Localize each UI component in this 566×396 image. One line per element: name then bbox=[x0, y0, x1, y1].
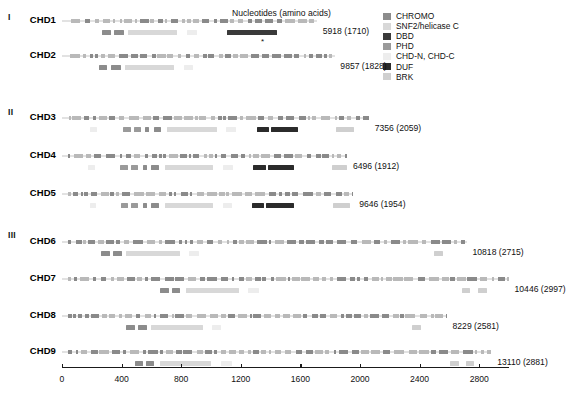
exon-block bbox=[146, 192, 155, 196]
exon-block bbox=[347, 116, 351, 120]
exon-block bbox=[350, 277, 356, 281]
exon-block bbox=[84, 116, 90, 120]
exon-block bbox=[262, 277, 266, 281]
exon-block bbox=[285, 350, 291, 354]
exon-block bbox=[91, 192, 97, 196]
exon-block bbox=[322, 277, 326, 281]
exon-block bbox=[189, 154, 191, 158]
domain-block-chromo bbox=[151, 203, 158, 208]
exon-block bbox=[152, 154, 157, 158]
exon-block bbox=[261, 350, 267, 354]
axis-tick-label: 2400 bbox=[410, 374, 429, 384]
exon-block bbox=[357, 277, 361, 281]
domain-block-chd-n-chd-c bbox=[248, 288, 258, 293]
exon-block bbox=[125, 314, 133, 318]
exon-block bbox=[284, 54, 293, 58]
exon-block bbox=[364, 314, 368, 318]
exon-block bbox=[181, 192, 188, 196]
exon-block bbox=[81, 350, 87, 354]
exon-block bbox=[498, 277, 505, 281]
exon-block bbox=[450, 277, 455, 281]
exon-block bbox=[68, 350, 72, 354]
exon-block bbox=[218, 240, 222, 244]
axis-tick-label: 400 bbox=[114, 374, 128, 384]
exon-block bbox=[193, 154, 199, 158]
exon-block bbox=[271, 277, 274, 281]
axis-tick-label: 1200 bbox=[231, 374, 250, 384]
exon-block bbox=[435, 314, 443, 318]
exon-block bbox=[384, 240, 387, 244]
exon-block bbox=[172, 314, 174, 318]
exon-block bbox=[431, 350, 436, 354]
exon-block bbox=[442, 277, 449, 281]
exon-block bbox=[283, 314, 290, 318]
exon-block bbox=[119, 54, 127, 58]
legend-swatch-icon bbox=[383, 43, 391, 50]
domain-block-snf2-helicase-c bbox=[186, 288, 240, 293]
exon-block bbox=[190, 240, 193, 244]
exon-block bbox=[245, 192, 252, 196]
exon-block bbox=[307, 154, 312, 158]
exon-block bbox=[337, 277, 346, 281]
exon-block bbox=[91, 350, 98, 354]
exon-block bbox=[335, 116, 338, 120]
group-numeral-i: I bbox=[8, 12, 11, 22]
legend-item-label: CHROMO bbox=[396, 11, 434, 21]
domain-block-brk bbox=[412, 325, 421, 330]
exon-block bbox=[211, 116, 215, 120]
exon-block bbox=[246, 277, 252, 281]
domain-block-duf bbox=[257, 127, 269, 132]
domain-block-duf bbox=[268, 165, 295, 170]
exon-block bbox=[157, 54, 165, 58]
exon-block bbox=[184, 116, 194, 120]
domain-block-chromo bbox=[101, 251, 109, 256]
exon-block bbox=[80, 277, 89, 281]
axis-tick bbox=[241, 364, 242, 369]
exon-block bbox=[268, 116, 273, 120]
exon-block bbox=[230, 19, 234, 23]
domain-block-chromo bbox=[151, 165, 158, 170]
exon-block bbox=[179, 240, 183, 244]
exon-block bbox=[197, 350, 202, 354]
domain-block-phd bbox=[134, 127, 141, 132]
exon-block bbox=[304, 54, 306, 58]
exon-block bbox=[112, 350, 120, 354]
exon-block bbox=[197, 192, 204, 196]
axis-tick-label: 800 bbox=[174, 374, 188, 384]
exon-block bbox=[169, 154, 179, 158]
exon-block bbox=[239, 350, 244, 354]
domain-block-chd-n-chd-c bbox=[90, 127, 97, 132]
exon-block bbox=[84, 192, 88, 196]
exon-block bbox=[330, 314, 337, 318]
legend-swatch-icon bbox=[383, 13, 391, 20]
exon-block bbox=[309, 19, 314, 23]
exon-block bbox=[334, 350, 336, 354]
domain-block-chd-n-chd-c bbox=[184, 65, 193, 70]
exon-block bbox=[165, 277, 174, 281]
exon-block bbox=[229, 350, 237, 354]
protein-label-chd9: CHD9 bbox=[0, 345, 56, 356]
exon-block bbox=[106, 154, 115, 158]
domain-block-brk bbox=[333, 203, 349, 208]
domain-block-brk bbox=[336, 127, 354, 132]
domain-block-brk bbox=[466, 361, 474, 366]
exon-block bbox=[154, 314, 157, 318]
exon-block bbox=[487, 350, 491, 354]
exon-block bbox=[288, 277, 290, 281]
protein-count-label: 8229 (2581) bbox=[453, 321, 499, 331]
exon-block bbox=[110, 192, 114, 196]
exon-block bbox=[262, 54, 269, 58]
exon-block bbox=[147, 240, 155, 244]
protein-label-chd4: CHD4 bbox=[0, 149, 56, 160]
exon-block bbox=[301, 277, 310, 281]
exon-block bbox=[403, 240, 406, 244]
domain-block-chromo bbox=[126, 325, 135, 330]
exon-block bbox=[180, 154, 187, 158]
exon-block bbox=[320, 314, 326, 318]
exon-block bbox=[454, 240, 457, 244]
exon-block bbox=[85, 19, 90, 23]
exon-block bbox=[339, 116, 343, 120]
exon-block bbox=[108, 54, 115, 58]
exon-block bbox=[68, 154, 70, 158]
domain-block-chd-n-chd-c bbox=[90, 203, 97, 208]
